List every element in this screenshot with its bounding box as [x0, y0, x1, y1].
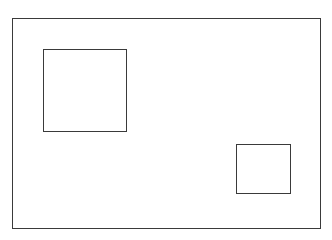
large-inner-square [43, 49, 127, 132]
small-inner-square [236, 144, 291, 194]
